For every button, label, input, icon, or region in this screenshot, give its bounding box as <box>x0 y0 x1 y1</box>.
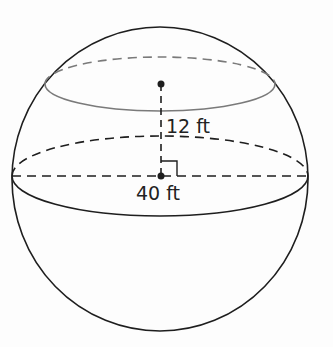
sphere-center-point <box>158 173 165 180</box>
top-center-point <box>158 81 165 88</box>
equator-back <box>12 136 308 176</box>
cross-section-front <box>45 84 275 111</box>
sphere-diagram: 12 ft 40 ft <box>0 0 333 347</box>
diameter-label: 40 ft <box>136 182 180 204</box>
height-label: 12 ft <box>166 115 210 137</box>
cross-section-back <box>45 57 275 84</box>
